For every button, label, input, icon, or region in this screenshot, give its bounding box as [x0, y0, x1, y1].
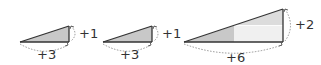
triangle-2: +3 +1 — [103, 26, 181, 62]
rise-label-2: +1 — [162, 26, 181, 41]
triangle-1: +3 +1 — [20, 26, 98, 62]
diagram-svg: +3 +1 +3 +1 +6 +2 — [0, 0, 321, 65]
rise-label-1: +1 — [79, 26, 98, 41]
run-label-2: +3 — [120, 47, 139, 62]
rise-label-3: +2 — [295, 17, 314, 32]
slope-diagram: +3 +1 +3 +1 +6 +2 — [0, 0, 321, 65]
run-label-1: +3 — [37, 47, 56, 62]
run-label-3: +6 — [226, 50, 245, 65]
triangle-3: +6 +2 — [184, 9, 314, 65]
